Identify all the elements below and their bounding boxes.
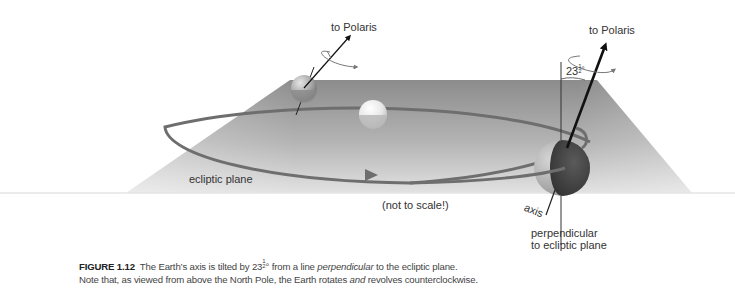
label-tilt-angle: 2312° [566,64,585,77]
caption-line2-italic: and [350,274,366,285]
tilt-angle-unit: ° [582,65,585,74]
label-to-polaris-far: to Polaris [331,21,377,33]
label-perpendicular: perpendicular to ecliptic plane [531,227,607,251]
rotation-arrow-small-icon [322,51,356,67]
caption-line1-italic: perpendicular [317,261,373,272]
label-to-polaris-near: to Polaris [589,24,635,36]
figure-caption: FIGURE 1.12 The Earth’s axis is tilted b… [79,259,478,286]
sun [359,100,387,129]
caption-line1-part-c: to the ecliptic plane. [374,261,458,272]
label-ecliptic-plane: ecliptic plane [189,173,253,185]
label-not-to-scale: (not to scale!) [382,199,449,211]
tilt-angle-arc [561,78,585,80]
caption-line1-part-a: The Earth’s axis is tilted by 23 [140,261,262,272]
diagram-canvas [0,0,735,294]
earth-tilt-figure: to Polaris to Polaris 2312° ecliptic pla… [0,0,735,294]
tilt-angle-whole: 23 [566,65,578,77]
label-perpendicular-line2: to ecliptic plane [531,239,607,251]
caption-line2-part-a: Note that, as viewed from above the Nort… [79,274,350,285]
caption-figure-label: FIGURE 1.12 [79,261,135,272]
label-perpendicular-line1: perpendicular [531,227,598,239]
caption-line1-part-b: ° from a line [265,261,317,272]
caption-line2-part-b: revolves counterclockwise. [365,274,478,285]
